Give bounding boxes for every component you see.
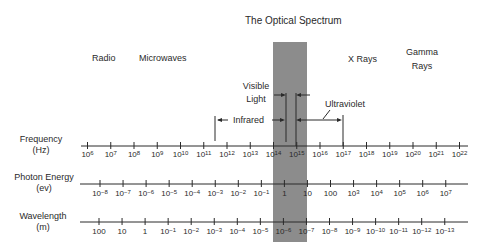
wavelength-tick-label: 10−4: [229, 227, 245, 236]
band-label-xrays: X Rays: [348, 54, 377, 64]
band-label-ultraviolet: Ultraviolet: [325, 99, 365, 109]
wavelength-tick-label: 100: [92, 227, 105, 236]
photon-energy-tick-label: 10−2: [230, 189, 246, 198]
frequency-tick-label: 1020: [405, 150, 421, 159]
photon-energy-tick-label: 103: [347, 189, 359, 198]
ultraviolet-right-arrow-icon: [337, 118, 342, 122]
band-label-gamma-rays: Gamma Rays: [402, 47, 442, 71]
frequency-tick-label: 1012: [219, 150, 235, 159]
frequency-tick-label: 1010: [173, 150, 189, 159]
photon-energy-tick-label: 10−6: [138, 189, 154, 198]
frequency-tick-label: 1015: [289, 150, 305, 159]
photon-energy-tick-label: 10−1: [253, 189, 269, 198]
photon-energy-label: Photon Energy: [8, 172, 80, 182]
photon-energy-tick-label: 10−8: [92, 189, 108, 198]
photon-energy-unit: (ev): [8, 183, 80, 193]
band-label-visible-light: Visible Light: [236, 81, 276, 104]
frequency-label: Frequency: [10, 134, 72, 144]
photon-energy-tick-label: 10: [303, 189, 312, 198]
axis-label-frequency: Frequency (Hz): [10, 134, 72, 155]
photon-energy-tick-label: 10−3: [207, 189, 223, 198]
wavelength-tick-label: 10−1: [160, 227, 176, 236]
frequency-tick-label: 107: [105, 150, 117, 159]
wavelength-tick-label: 10−13: [435, 227, 454, 236]
wavelength-tick-label: 10−2: [183, 227, 199, 236]
photon-energy-tick-label: 106: [417, 189, 429, 198]
band-label-microwaves: Microwaves: [139, 53, 187, 63]
gamma-line-2: Rays: [402, 61, 442, 71]
visible-left-arrow-icon: [281, 93, 286, 97]
wavelength-tick-label: 10−9: [345, 227, 361, 236]
wavelength-tick-label: 10−3: [206, 227, 222, 236]
gamma-line-1: Gamma: [402, 47, 442, 57]
axis-label-wavelength: Wavelength (m): [10, 211, 76, 232]
wavelength-tick-label: 10−12: [412, 227, 431, 236]
frequency-tick-label: 106: [81, 150, 93, 159]
axis-label-photon-energy: Photon Energy (ev): [8, 172, 80, 193]
ultraviolet-left-arrow-icon: [296, 118, 301, 122]
frequency-tick-label: 1014: [266, 150, 282, 159]
visible-right-arrow-icon: [296, 93, 301, 97]
wavelength-tick-label: 10−8: [322, 227, 338, 236]
visible-line-2: Light: [236, 94, 276, 104]
frequency-tick-label: 1021: [428, 150, 444, 159]
wavelength-tick-label: 10−5: [252, 227, 268, 236]
frequency-tick-label: 1019: [382, 150, 398, 159]
photon-energy-tick-label: 10−5: [161, 189, 177, 198]
photon-energy-tick-label: 10−4: [184, 189, 200, 198]
photon-energy-tick-label: 1: [282, 189, 286, 198]
photon-energy-tick-label: 104: [370, 189, 382, 198]
frequency-tick-label: 1013: [242, 150, 258, 159]
band-label-infrared: Infrared: [233, 115, 264, 125]
frequency-tick-label: 1022: [452, 150, 468, 159]
frequency-tick-label: 1018: [359, 150, 375, 159]
wavelength-tick-label: 10−11: [389, 227, 408, 236]
infrared-left-arrow-icon: [217, 118, 222, 122]
photon-energy-tick-label: 105: [394, 189, 406, 198]
frequency-tick-label: 1011: [196, 150, 211, 159]
wavelength-tick-label: 10−10: [366, 227, 385, 236]
frequency-tick-label: 108: [128, 150, 140, 159]
wavelength-tick-label: 1: [143, 227, 147, 236]
wavelength-tick-label: 10−7: [299, 227, 315, 236]
frequency-tick-label: 109: [151, 150, 163, 159]
photon-energy-tick-label: 107: [440, 189, 452, 198]
wavelength-unit: (m): [10, 222, 76, 232]
visible-line-1: Visible: [236, 81, 276, 91]
wavelength-tick-label: 10: [118, 227, 127, 236]
ultraviolet-leader-line: [323, 110, 330, 119]
wavelength-label: Wavelength: [10, 211, 76, 221]
photon-energy-tick-label: 10−7: [115, 189, 131, 198]
band-label-radio: Radio: [92, 53, 116, 63]
photon-energy-tick-label: 100: [324, 189, 337, 198]
frequency-tick-label: 1016: [312, 150, 328, 159]
frequency-tick-label: 1017: [335, 150, 351, 159]
diagram-title: The Optical Spectrum: [245, 16, 342, 26]
infrared-right-arrow-icon: [280, 118, 285, 122]
frequency-unit: (Hz): [10, 145, 72, 155]
wavelength-tick-label: 10−6: [276, 227, 292, 236]
